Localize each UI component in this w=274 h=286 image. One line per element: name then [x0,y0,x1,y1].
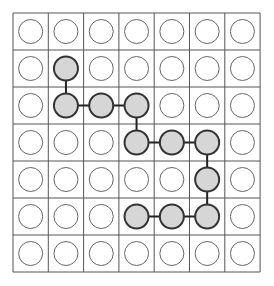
empty-circle-node [19,168,43,192]
empty-circle-node [195,94,219,118]
empty-circle-node [195,20,219,44]
empty-circle-node [195,57,219,81]
filled-circle-node [195,131,219,155]
filled-circle-node [125,131,149,155]
empty-circle-node [125,57,149,81]
filled-circle-node [195,205,219,229]
empty-circle-node [125,20,149,44]
empty-circle-node [230,20,254,44]
empty-circle-node [160,20,184,44]
empty-circle-node [54,205,78,229]
empty-circle-node [19,20,43,44]
grid-canvas [0,0,274,286]
empty-circle-node [19,205,43,229]
grid-diagram [0,0,274,286]
filled-circle-node [54,57,78,81]
empty-circle-node [160,57,184,81]
filled-circle-node [160,205,184,229]
empty-circle-node [54,20,78,44]
empty-circle-node [19,57,43,81]
empty-circle-node [89,20,113,44]
filled-circle-node [89,94,113,118]
empty-circle-node [230,205,254,229]
empty-circle-node [125,242,149,266]
empty-circle-node [89,205,113,229]
empty-circle-node [230,131,254,155]
empty-circle-node [19,131,43,155]
empty-circle-node [160,242,184,266]
empty-circle-node [125,168,149,192]
empty-circle-node [160,168,184,192]
filled-circle-node [195,168,219,192]
empty-circle-node [230,242,254,266]
filled-circle-node [54,94,78,118]
empty-circle-node [54,168,78,192]
empty-circle-node [19,242,43,266]
empty-circle-node [230,168,254,192]
empty-circle-node [54,131,78,155]
empty-circle-node [160,94,184,118]
empty-circle-node [89,242,113,266]
empty-circle-node [230,57,254,81]
filled-circle-node [160,131,184,155]
filled-circle-node [125,94,149,118]
filled-circle-node [125,205,149,229]
empty-circle-node [19,94,43,118]
empty-circle-node [89,57,113,81]
empty-circle-node [89,168,113,192]
empty-circle-node [54,242,78,266]
empty-circle-node [195,242,219,266]
empty-circle-node [230,94,254,118]
empty-circle-node [89,131,113,155]
